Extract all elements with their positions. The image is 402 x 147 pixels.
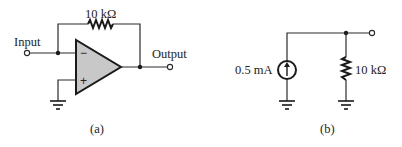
output-junction-dot [138, 65, 142, 69]
panel-a: 10 kΩ Input − + Output (a) [14, 7, 187, 136]
feedback-resistor-icon [88, 20, 113, 28]
top-wire [287, 33, 369, 61]
input-junction-dot [56, 51, 60, 55]
caption-b: (b) [320, 122, 335, 136]
ground-icon [279, 101, 295, 109]
output-terminal-icon [369, 30, 374, 35]
input-terminal-icon [24, 50, 29, 55]
ground-icon [338, 101, 354, 109]
current-source-icon [278, 61, 296, 79]
circuit-diagram: 10 kΩ Input − + Output (a) [0, 0, 402, 147]
noninverting-input-sign: + [80, 74, 87, 88]
output-terminal-icon [167, 64, 172, 69]
resistor-icon [342, 57, 350, 80]
resistor-label: 10 kΩ [355, 63, 386, 77]
feedback-wire-right [113, 24, 140, 67]
input-label: Input [14, 35, 41, 49]
noninverting-wire [58, 80, 76, 101]
ground-icon [50, 101, 66, 109]
output-label: Output [152, 47, 187, 61]
caption-a: (a) [90, 122, 104, 136]
inverting-input-sign: − [80, 46, 87, 60]
current-source-label: 0.5 mA [235, 63, 273, 77]
panel-b: 0.5 mA 10 kΩ (b) [235, 30, 386, 136]
